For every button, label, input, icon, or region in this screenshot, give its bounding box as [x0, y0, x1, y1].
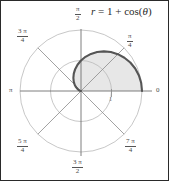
angle-label-pi: π — [9, 87, 13, 94]
radial-tick-label-1: 1 — [109, 96, 112, 102]
angle-label-5pi-over-4: 5 π 4 — [17, 137, 28, 154]
angle-label-7pi-over-4: 7 π 4 — [125, 137, 136, 154]
plot-title: r = 1 + cos(θ) — [91, 5, 152, 17]
angle-label-zero: 0 — [156, 87, 160, 94]
title-cos: cos( — [124, 5, 142, 17]
angle-label-3pi-over-4: 3 π 4 — [17, 27, 28, 44]
angle-label-pi-over-2: π 2 — [75, 5, 81, 22]
polar-plot-figure: r = 1 + cos(θ) π 2 3 π 4 π 4 π 0 5 π 4 — [0, 0, 169, 181]
title-paren: ) — [148, 5, 152, 17]
title-operator: = 1 + — [95, 5, 124, 17]
angle-label-5pi-over-4-den: 4 — [17, 147, 28, 154]
angle-label-3pi-over-4-den: 4 — [17, 37, 28, 44]
angle-label-7pi-over-4-den: 4 — [125, 147, 136, 154]
angle-label-3pi-over-2-den: 2 — [72, 168, 83, 175]
angle-label-3pi-over-2: 3 π 2 — [72, 158, 83, 175]
angle-label-pi-over-4-den: 4 — [127, 42, 133, 49]
angle-label-pi-over-4: π 4 — [127, 32, 133, 49]
angle-label-pi-over-2-den: 2 — [75, 15, 81, 22]
